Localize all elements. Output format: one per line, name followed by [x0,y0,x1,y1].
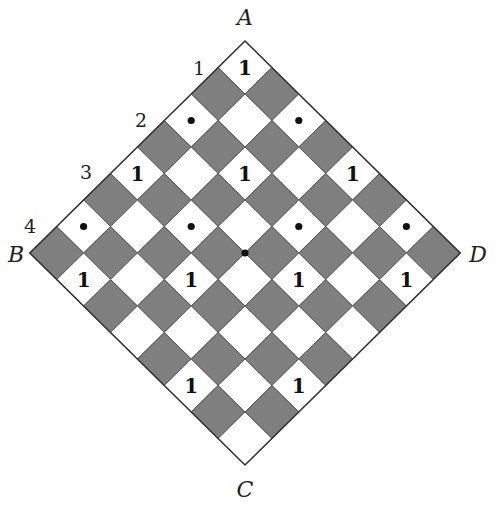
cell-number: 1 [346,162,360,186]
cell-number: 1 [399,268,413,292]
corner-label-D: D [468,242,487,267]
cell-number: 1 [292,268,306,292]
dot-icon [403,223,410,230]
cell-number: 1 [184,268,198,292]
cell-number: 1 [130,162,144,186]
cell-number: 1 [77,268,91,292]
dot-icon [295,223,302,230]
diagonal-label: 1 [193,57,205,79]
cell-number: 1 [184,374,198,398]
cell-number: 1 [292,374,306,398]
dot-icon [188,223,195,230]
corner-label-C: C [237,477,254,502]
diagonal-label: 2 [135,109,147,131]
diagonal-label: 4 [24,215,36,237]
diagonal-label: 3 [80,161,92,183]
rotated-checkerboard-diagram: 1111111111 ABDC 1234 [0,0,499,505]
center-dot-icon [241,249,248,256]
dot-icon [80,223,87,230]
cell-number: 1 [238,162,252,186]
dot-icon [188,117,195,124]
dot-icon [295,117,302,124]
cell-number: 1 [238,56,252,80]
corner-label-A: A [235,5,253,30]
corner-label-B: B [7,242,24,267]
